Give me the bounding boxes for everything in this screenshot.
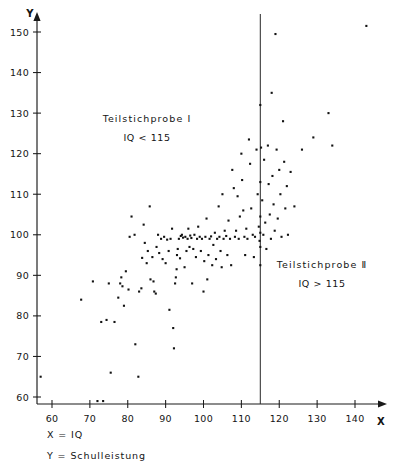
scatter-point: [172, 327, 174, 329]
scatter-point: [203, 260, 205, 262]
scatter-point: [200, 250, 202, 252]
scatter-point: [149, 205, 151, 207]
annotation-right-title: Teilstichprobe Ⅱ: [276, 259, 368, 270]
scatter-point: [239, 215, 241, 217]
scatter-point: [227, 220, 229, 222]
x-tick-label: 130: [308, 413, 327, 424]
scatter-point: [179, 257, 181, 259]
scatter-point: [105, 319, 107, 321]
scatter-point: [113, 321, 115, 323]
scatter-point: [273, 203, 275, 205]
scatter-point: [80, 299, 82, 301]
scatter-point: [146, 262, 148, 264]
scatter-point: [160, 238, 162, 240]
y-tick-label: 140: [10, 67, 29, 78]
scatter-point: [286, 185, 288, 187]
scatter-point: [174, 282, 176, 284]
x-tick-label: 60: [46, 413, 59, 424]
scatter-point: [168, 309, 170, 311]
scatter-point: [265, 248, 267, 250]
scatter-point: [301, 149, 303, 151]
scatter-point: [138, 291, 140, 293]
scatter-point: [270, 238, 272, 240]
scatter-point: [268, 183, 270, 185]
scatter-point: [163, 236, 165, 238]
scatter-point: [235, 230, 237, 232]
footer-x-definition: X = IQ: [47, 429, 83, 440]
scatter-point: [96, 400, 98, 402]
scatter-point: [237, 195, 239, 197]
x-tick-label: 70: [84, 413, 97, 424]
scatter-point: [149, 278, 151, 280]
scatter-point: [92, 280, 94, 282]
scatter-point: [259, 104, 261, 106]
y-tick-label: 150: [10, 27, 29, 38]
scatter-point: [100, 321, 102, 323]
scatter-point: [188, 246, 190, 248]
scatter-point: [140, 287, 142, 289]
scatter-point: [262, 234, 264, 236]
scatter-point: [267, 145, 269, 147]
scatter-point: [246, 238, 248, 240]
scatter-point: [287, 234, 289, 236]
scatter-point: [207, 254, 209, 256]
scatter-point: [271, 175, 273, 177]
y-tick-label: 120: [10, 148, 29, 159]
scatter-point: [187, 228, 189, 230]
annotation-right-subtitle: IQ > 115: [298, 278, 345, 289]
scatter-point: [259, 215, 261, 217]
scatter-point: [120, 276, 122, 278]
scatter-point: [127, 288, 129, 290]
scatter-point: [218, 236, 220, 238]
scatter-point: [209, 238, 211, 240]
scatter-point: [110, 372, 112, 374]
scatter-point: [182, 237, 184, 239]
scatter-point: [279, 193, 281, 195]
scatter-point: [218, 205, 220, 207]
annotation-left-title: Teilstichprobe I: [102, 113, 192, 124]
scatter-point: [261, 199, 263, 201]
scatter-point: [134, 343, 136, 345]
scatter-point: [152, 280, 154, 282]
scatter-point: [157, 234, 159, 236]
scatter-point: [226, 254, 228, 256]
scatter-point: [230, 264, 232, 266]
scatter-point: [283, 161, 285, 163]
scatter-point: [181, 234, 183, 236]
scatter-point: [216, 238, 218, 240]
scatter-point: [229, 238, 231, 240]
scatter-point: [259, 181, 261, 183]
scatter-point: [155, 293, 157, 295]
y-tick-label: 110: [10, 189, 29, 200]
scatter-point: [252, 234, 254, 236]
scatter-point: [166, 239, 168, 241]
scatter-point: [260, 147, 262, 149]
scatter-point: [327, 112, 329, 114]
scatter-point: [199, 236, 201, 238]
scatter-point: [202, 291, 204, 293]
scatter-point: [215, 258, 217, 260]
scatter-point: [197, 226, 199, 228]
scatter-plot-figure: 60708090100110120130140150 6070809010011…: [0, 0, 401, 470]
scatter-point: [250, 207, 252, 209]
scatter-point: [231, 169, 233, 171]
scatter-point: [153, 291, 155, 293]
scatter-point: [191, 282, 193, 284]
x-tick-label: 110: [232, 413, 251, 424]
scatter-point: [144, 242, 146, 244]
scatter-point: [170, 238, 172, 240]
scatter-point: [240, 153, 242, 155]
scatter-point: [210, 235, 212, 237]
scatter-point: [205, 218, 207, 220]
scatter-point: [259, 240, 261, 242]
scatter-point: [278, 169, 280, 171]
scatter-point: [193, 234, 195, 236]
scatter-point: [192, 248, 194, 250]
scatter-point: [185, 250, 187, 252]
scatter-point: [184, 236, 186, 238]
scatter-point: [282, 120, 284, 122]
scatter-point: [201, 238, 203, 240]
scatter-point: [196, 238, 198, 240]
plot-canvas: 60708090100110120130140150 6070809010011…: [0, 0, 401, 470]
scatter-point: [204, 236, 206, 238]
